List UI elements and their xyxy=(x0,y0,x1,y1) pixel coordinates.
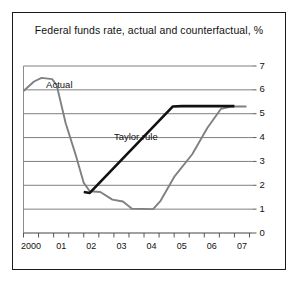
x-tick-label: 04 xyxy=(137,241,167,251)
series-line-actual xyxy=(24,78,247,209)
x-tick-label: 01 xyxy=(46,241,76,251)
chart-figure: Federal funds rate, actual and counterfa… xyxy=(0,0,307,283)
series-line-taylor-rule xyxy=(84,106,235,193)
y-tick-label: 7 xyxy=(260,60,274,71)
y-tick-label: 3 xyxy=(260,155,274,166)
series-annotation: Actual xyxy=(46,79,72,90)
y-tick-label: 1 xyxy=(260,203,274,214)
x-tick-label: 03 xyxy=(106,241,136,251)
series-annotation: Taylor rule xyxy=(114,131,158,142)
y-tick-label: 6 xyxy=(260,83,274,94)
x-tick-label: 07 xyxy=(227,241,257,251)
y-tick-label: 2 xyxy=(260,179,274,190)
y-tick-label: 0 xyxy=(260,227,274,238)
x-tick-label: 06 xyxy=(197,241,227,251)
y-tick-label: 5 xyxy=(260,107,274,118)
x-tick-label: 05 xyxy=(167,241,197,251)
x-axis-ticks xyxy=(24,233,250,238)
x-tick-label: 02 xyxy=(76,241,106,251)
x-tick-label: 2000 xyxy=(16,241,46,251)
y-tick-label: 4 xyxy=(260,131,274,142)
series-lines xyxy=(24,78,247,209)
